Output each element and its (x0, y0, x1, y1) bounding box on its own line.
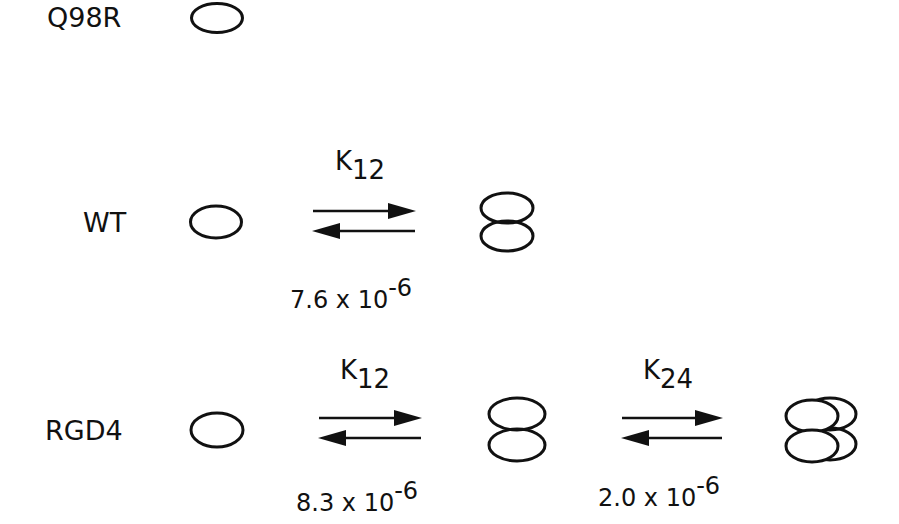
equilibrium-value-k12: 8.3 x 10-6 (296, 479, 418, 515)
monomer-icon (189, 411, 247, 451)
dimer-icon (478, 191, 538, 255)
monomer-icon (190, 2, 246, 36)
row-label-wt: WT (83, 209, 126, 236)
equilibrium-constant-k24: K24 (643, 357, 693, 392)
tetramer-icon (783, 395, 861, 467)
equilibrium-arrows-icon (312, 200, 418, 240)
dimer-icon (486, 396, 550, 466)
equilibrium-constant-k12: K12 (340, 357, 390, 392)
equilibrium-arrows-icon (621, 408, 725, 448)
monomer-icon (189, 204, 245, 242)
equilibrium-value-k24: 2.0 x 10-6 (598, 474, 720, 510)
equilibrium-constant-k12: K12 (335, 148, 385, 183)
equilibrium-value-k12: 7.6 x 10-6 (290, 276, 412, 312)
row-label-rgd4: RGD4 (45, 417, 123, 444)
row-label-q98r: Q98R (47, 4, 121, 31)
equilibrium-arrows-icon (318, 408, 424, 448)
